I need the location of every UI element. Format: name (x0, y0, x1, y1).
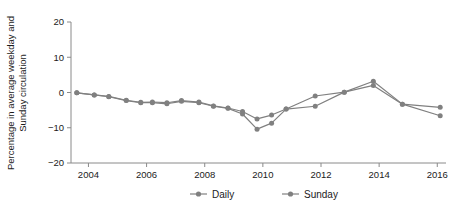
y-tick-label: 0 (59, 87, 64, 98)
data-point-sunday (284, 107, 289, 112)
data-point-daily (313, 94, 318, 99)
x-tick-label: 2010 (252, 169, 273, 180)
data-point-sunday (211, 104, 216, 109)
x-tick-label: 2014 (369, 169, 390, 180)
data-point-sunday (313, 104, 318, 109)
x-tick-label: 2012 (310, 169, 331, 180)
chart-container: 20100−10−202004200620082010201220142016 … (0, 0, 454, 212)
x-tick-label: 2008 (194, 169, 215, 180)
data-point-sunday (74, 90, 79, 95)
data-point-sunday (240, 112, 245, 117)
data-point-sunday (92, 92, 97, 97)
data-point-sunday (138, 100, 143, 105)
y-tick-label: 20 (53, 16, 64, 27)
series-line-sunday (77, 85, 440, 129)
data-point-daily (438, 105, 443, 110)
data-point-sunday (150, 100, 155, 105)
data-point-sunday (255, 127, 260, 132)
y-axis-title-line1: Percentage in average weekday and (5, 16, 16, 170)
data-point-sunday (124, 98, 129, 103)
line-chart: 20100−10−202004200620082010201220142016 … (0, 0, 454, 212)
series-line-daily (77, 81, 440, 119)
data-point-sunday (400, 102, 405, 107)
data-point-sunday (371, 83, 376, 88)
data-point-sunday (106, 94, 111, 99)
chart-legend: DailySunday (190, 189, 338, 200)
legend-label-daily: Daily (212, 189, 234, 200)
data-point-sunday (225, 106, 230, 111)
x-tick-label: 2006 (136, 169, 157, 180)
legend-label-sunday: Sunday (304, 189, 338, 200)
data-point-sunday (269, 121, 274, 126)
y-tick-label: −20 (48, 157, 64, 168)
axis-titles: Percentage in average weekday andSunday … (5, 16, 28, 170)
data-point-sunday (196, 100, 201, 105)
x-tick-label: 2016 (427, 169, 448, 180)
y-tick-label: 10 (53, 52, 64, 63)
data-point-sunday (164, 101, 169, 106)
data-point-sunday (179, 99, 184, 104)
data-series (74, 79, 442, 132)
legend-swatch-dot-daily (196, 191, 201, 196)
y-tick-label: −10 (48, 122, 64, 133)
data-point-sunday (438, 113, 443, 118)
legend-swatch-dot-sunday (288, 191, 293, 196)
data-point-daily (269, 113, 274, 118)
x-tick-label: 2004 (78, 169, 99, 180)
data-point-sunday (342, 90, 347, 95)
y-axis-title-line2: Sunday circulation (17, 54, 28, 132)
data-point-daily (255, 116, 260, 121)
